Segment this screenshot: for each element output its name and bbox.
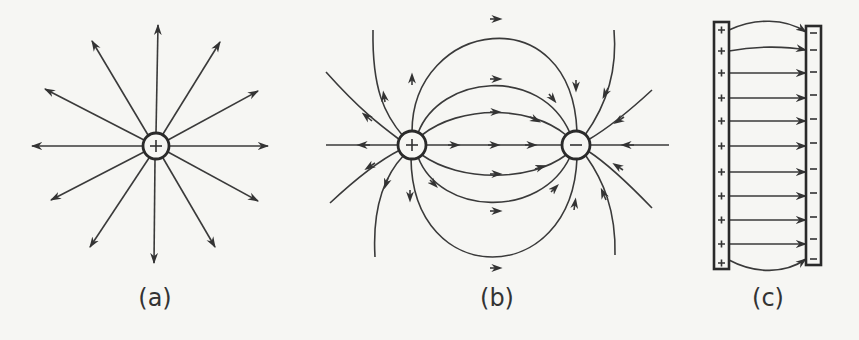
panel-b-label: (b)	[480, 284, 514, 312]
panel-c-label: (c)	[752, 284, 784, 312]
plus-sign-icon	[406, 139, 418, 151]
dipole-field-lines	[326, 19, 669, 268]
plus-sign-icon	[150, 140, 162, 152]
panel-a-label: (a)	[138, 284, 171, 312]
radial-field-lines	[32, 25, 268, 263]
panel-c-parallel-plates: (c)	[714, 21, 821, 312]
electric-field-figure: (a)	[0, 0, 859, 340]
panel-a-point-charge: (a)	[32, 25, 268, 312]
panel-b-dipole: (b)	[326, 19, 669, 312]
negative-plate	[806, 26, 821, 265]
uniform-field-lines	[729, 21, 806, 270]
